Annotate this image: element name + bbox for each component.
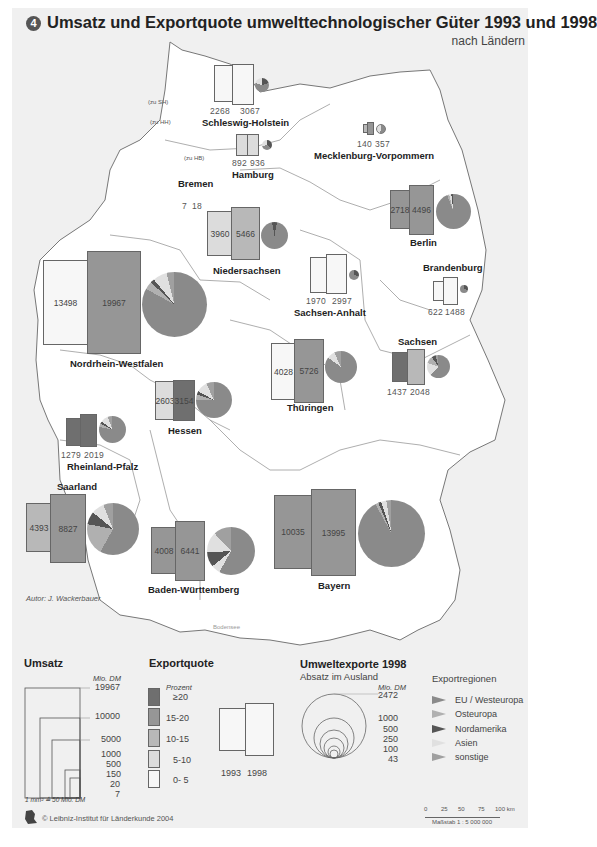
- label-sachsen: Sachsen: [398, 336, 437, 347]
- value-schleswig-holstein-1993: 2268: [210, 106, 230, 116]
- legend-class-label: 0- 5: [173, 775, 189, 785]
- bar-bw-1998: 6441: [175, 521, 205, 581]
- value-niedersachsen-1998: 5466: [236, 229, 255, 239]
- bar-hessen-1993: 2603: [155, 381, 175, 420]
- region-label: EU / Westeuropa: [455, 695, 523, 705]
- legend-umsatz-value: 5000: [101, 734, 121, 744]
- value-nrw-1998: 19967: [102, 298, 126, 308]
- bar-nrw-1998: 19967: [87, 251, 141, 354]
- scale-tick: 75: [478, 806, 485, 812]
- value-brandenburg-1998: 1488: [445, 307, 465, 317]
- note-zu-sh: (zu SH): [148, 99, 168, 105]
- value-hessen-1993: 2603: [156, 396, 175, 406]
- value-bw-1993: 4008: [155, 546, 174, 556]
- pie-saarland: [87, 503, 139, 555]
- region-sonstige-icon: [432, 753, 446, 761]
- value-hamburg-1993: 892: [232, 158, 247, 168]
- value-saarland-1993: 4393: [30, 523, 49, 533]
- region-label: sonstige: [455, 752, 489, 762]
- region-osteuropa-icon: [432, 710, 446, 718]
- legend-year-box-1993: [219, 708, 246, 751]
- bar-saarland-1993: 4393: [26, 503, 52, 552]
- label-baden-wuerttemberg: Baden-Württemberg: [148, 584, 239, 595]
- legend-year-1993: 1993: [221, 768, 241, 778]
- legend-umsatz-value: 500: [106, 759, 121, 769]
- value-hessen-1998: 3154: [175, 396, 194, 406]
- label-hamburg: Hamburg: [232, 169, 274, 180]
- bar-berlin-1993: 2718: [390, 190, 410, 229]
- value-bayern-1993: 10035: [281, 527, 305, 537]
- value-thueringen-1993: 4028: [274, 367, 293, 377]
- legend-class-label: 15-20: [166, 713, 189, 723]
- value-sachsen-anhalt-1993: 1970: [306, 296, 326, 306]
- value-brandenburg-1993: 622: [428, 307, 443, 317]
- legend-umsatz-title: Umsatz: [24, 657, 63, 669]
- label-bayern: Bayern: [318, 580, 350, 591]
- copyright: © Leibniz-Institut für Länderkunde 2004: [42, 814, 173, 823]
- legend-swatch-10-15: [148, 729, 160, 747]
- label-niedersachsen: Niedersachsen: [213, 265, 281, 276]
- legend-umweltexporte-title: Umweltexporte 1998: [300, 658, 406, 670]
- scale-label: Maßstab 1 : 5 000 000: [432, 819, 492, 825]
- bar-rlp-1993: [66, 418, 81, 446]
- legend-export-value: 43: [388, 754, 398, 764]
- pie-bw: [207, 527, 255, 575]
- bar-brandenburg-1998: [443, 277, 458, 305]
- pie-sachsen: [427, 355, 450, 378]
- region-label: Osteuropa: [455, 709, 497, 719]
- legend-swatch-15-20: [148, 708, 160, 726]
- value-berlin-1998: 4496: [412, 205, 431, 215]
- value-sachsen-anhalt-1998: 2997: [332, 296, 352, 306]
- legend-umsatz-value: 19967: [95, 682, 120, 692]
- region-label: Nordamerika: [455, 724, 507, 734]
- bar-mecklenburg-1998: [367, 122, 374, 135]
- pie-nrw: [142, 272, 207, 337]
- legend-year-1998: 1998: [247, 768, 267, 778]
- legend-class-label: 10-15: [166, 734, 189, 744]
- note-zu-hh: (zu HH): [150, 119, 171, 125]
- bar-sachsen-anhalt-1993: [310, 257, 327, 293]
- label-nordrhein-westfalen: Nordrhein-Westfalen: [70, 358, 163, 369]
- label-bremen: Bremen: [178, 178, 213, 189]
- value-rlp-1993: 1279: [61, 450, 81, 460]
- legend-umweltexporte-subtitle: Absatz im Ausland: [300, 671, 378, 682]
- bar-thueringen-1993: 4028: [271, 343, 296, 400]
- bar-hessen-1998: 3154: [173, 380, 195, 421]
- pie-thueringen: [325, 351, 357, 383]
- region-asien-icon: [432, 739, 446, 747]
- scale-tick: 50: [458, 806, 465, 812]
- scale-tick: 0: [424, 806, 427, 812]
- region-label: Asien: [455, 738, 478, 748]
- value-schleswig-holstein-1998: 3067: [240, 106, 260, 116]
- value-thueringen-1998: 5726: [300, 366, 319, 376]
- bar-bw-1993: 4008: [151, 527, 177, 574]
- legend-umsatz-value: 7: [115, 789, 120, 799]
- bar-sachsen-1998: [407, 349, 425, 385]
- bar-saarland-1998: 8827: [50, 494, 86, 563]
- label-hessen: Hessen: [168, 425, 202, 436]
- value-niedersachsen-1993: 3960: [211, 229, 230, 239]
- legend-exportregionen-title: Exportregionen: [432, 673, 496, 684]
- pie-schleswig-holstein: [255, 78, 269, 92]
- legend-umsatz-squares: [20, 680, 90, 800]
- legend-export-value: 1000: [378, 713, 398, 723]
- legend-umsatz-scale-note: 1 mm² ≙ 50 Mio. DM: [25, 796, 85, 804]
- value-hamburg-1998: 936: [250, 158, 265, 168]
- author-note: Autor: J. Wackerbauer: [26, 594, 100, 603]
- bar-nrw-1993: 13498: [43, 260, 88, 345]
- pie-sachsen-anhalt: [349, 270, 359, 280]
- legend-export-value: 2472: [378, 690, 398, 700]
- region-nordamerika-icon: [432, 725, 446, 733]
- value-bw-1998: 6441: [181, 546, 200, 556]
- pie-brandenburg: [460, 285, 468, 293]
- legend-year-box-1998: [245, 703, 274, 756]
- value-rlp-1998: 2019: [84, 450, 104, 460]
- value-saarland-1998: 8827: [59, 524, 78, 534]
- value-berlin-1993: 2718: [391, 205, 410, 215]
- legend-swatch-0-5: [148, 770, 160, 788]
- pie-hamburg: [262, 140, 272, 150]
- label-thueringen: Thüringen: [287, 402, 333, 413]
- pie-mecklenburg: [376, 124, 386, 134]
- pie-berlin: [436, 194, 471, 229]
- value-mecklenburg-1998: 357: [375, 139, 390, 149]
